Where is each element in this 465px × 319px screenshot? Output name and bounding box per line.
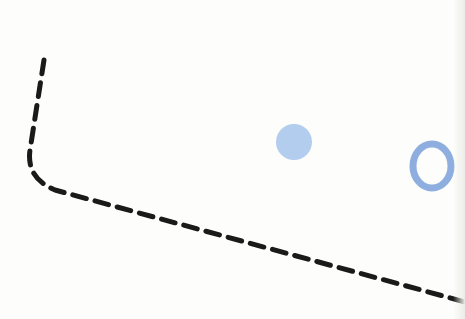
filled-blue-circle bbox=[276, 124, 312, 160]
page-edge-shadow bbox=[453, 0, 465, 319]
blue-ring bbox=[413, 144, 451, 188]
diagram-canvas bbox=[0, 0, 465, 319]
dashed-boundary-line bbox=[30, 60, 465, 302]
